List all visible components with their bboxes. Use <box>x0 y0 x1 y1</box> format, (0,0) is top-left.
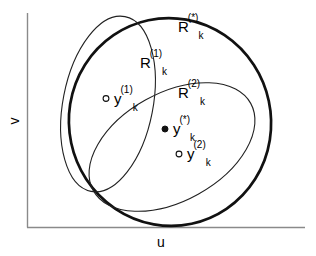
figure-canvas: R(*)k R(1)k R(2)k y(1)k y(*)k y(2)k v u <box>0 0 316 256</box>
region-label-r-1-superscript: (1) <box>150 48 162 59</box>
region-label-r-2-subscript: k <box>200 96 205 107</box>
point-label-y-1: y(1)k <box>114 91 139 106</box>
point-label-y-2-subscript: k <box>206 157 211 168</box>
point-marker-y-star <box>162 126 168 132</box>
point-marker-y-1 <box>103 96 109 102</box>
point-label-y-1-subscript: k <box>133 102 138 113</box>
region-label-r-1-subscript: k <box>162 66 167 77</box>
point-label-y-2: y(2)k <box>187 146 212 161</box>
point-label-y-star: y(*)k <box>173 121 196 136</box>
point-label-y-2-superscript: (2) <box>194 139 206 150</box>
region-label-r-2-superscript: (2) <box>188 78 200 89</box>
point-marker-y-2 <box>176 151 182 157</box>
region-label-r-star: R(*)k <box>178 19 204 34</box>
region-label-r-star-subscript: k <box>198 30 203 41</box>
region-r-star-ellipse <box>50 0 291 245</box>
region-r-1-ellipse <box>47 8 169 200</box>
x-axis-label: u <box>157 234 165 250</box>
region-r-2-ellipse <box>67 56 277 238</box>
point-label-y-1-superscript: (1) <box>121 84 133 95</box>
region-label-r-star-superscript: (*) <box>188 12 199 23</box>
diagram-svg <box>0 0 316 256</box>
y-axis-label: v <box>6 114 22 128</box>
region-label-r-2: R(2)k <box>178 85 206 100</box>
region-label-r-1: R(1)k <box>140 55 168 70</box>
point-label-y-star-superscript: (*) <box>180 114 191 125</box>
